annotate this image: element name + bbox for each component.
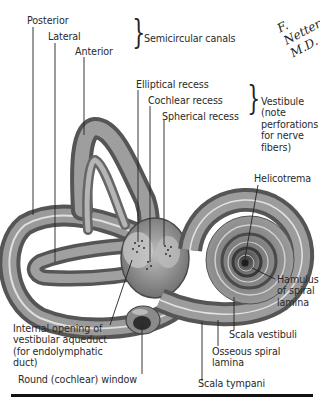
label-vestibular-aqueduct: Internal opening of vestibular aqueduct … bbox=[13, 323, 107, 369]
label-hamulus: Hamulus of spiral lamina bbox=[277, 274, 319, 308]
label-posterior: Posterior bbox=[27, 15, 69, 26]
label-scala-vestibuli: Scala vestibuli bbox=[229, 329, 297, 340]
group-vestibule: Vestibule (note perforations for nerve f… bbox=[261, 96, 318, 153]
label-lateral: Lateral bbox=[48, 31, 81, 42]
label-helicotrema: Helicotrema bbox=[254, 173, 311, 184]
label-osseous-spiral-lamina: Osseous spiral lamina bbox=[212, 346, 280, 369]
label-anterior: Anterior bbox=[75, 46, 113, 57]
label-scala-tympani: Scala tympani bbox=[198, 378, 265, 389]
label-round-window: Round (cochlear) window bbox=[18, 374, 137, 385]
label-spherical-recess: Spherical recess bbox=[162, 111, 239, 122]
group-semicircular-canals: Semicircular canals bbox=[144, 33, 235, 44]
label-cochlear-recess: Cochlear recess bbox=[148, 95, 223, 106]
round-window-shape bbox=[126, 306, 160, 334]
vestibule-shape bbox=[121, 218, 189, 298]
label-elliptical-recess: Elliptical recess bbox=[136, 79, 209, 90]
bottom-rule bbox=[11, 394, 313, 397]
brace-vestibule: } bbox=[247, 80, 260, 114]
